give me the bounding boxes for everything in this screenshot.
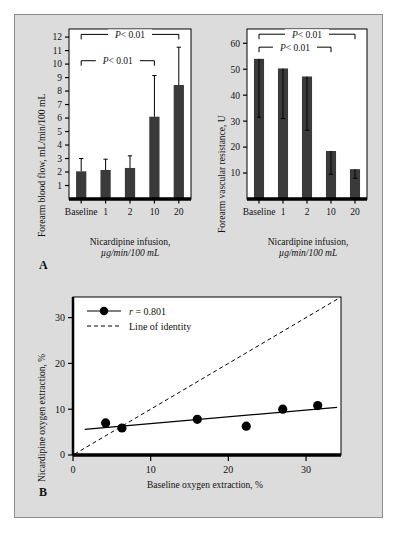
y-tick-label: 20 xyxy=(55,358,65,369)
x-tick-label: Baseline xyxy=(65,207,98,217)
figure-frame: Forearm blood flow, mL/min/100 mL 123456… xyxy=(14,14,383,518)
y-tick-label: 50 xyxy=(231,65,241,75)
y-tick-label: 8 xyxy=(57,86,62,96)
chart-b-y-axis-title-units: U xyxy=(217,115,227,122)
p-operator: < 0.01 xyxy=(121,30,146,40)
p-value-label: P< 0.01 xyxy=(279,43,310,53)
y-tick-label: 12 xyxy=(53,32,63,42)
legend-dot-marker xyxy=(100,307,108,315)
x-tick-label: Baseline xyxy=(243,207,276,217)
panel-a-vascular-resistance-chart: Forearm vascular resistance, U 102030405… xyxy=(195,15,385,265)
y-tick-label: 30 xyxy=(55,312,65,323)
x-tick-label: 30 xyxy=(301,464,311,475)
chart-c-x-axis-title-text: Baseline oxygen extraction, % xyxy=(147,480,263,490)
chart-a-y-axis-title-text: Forearm blood flow, xyxy=(37,157,47,237)
x-tick-label: 10 xyxy=(150,207,160,217)
data-point xyxy=(101,418,110,427)
y-tick-label: 7 xyxy=(57,100,62,110)
y-tick-label: 60 xyxy=(231,39,241,49)
y-tick-label: 30 xyxy=(231,117,241,127)
x-tick-label: 1 xyxy=(103,207,108,217)
chart-b-x-axis-title-line2: µg/min/100 mL xyxy=(279,248,338,258)
y-tick-label: 10 xyxy=(53,59,63,69)
p-value-label: P< 0.01 xyxy=(102,56,133,66)
x-tick-label: 10 xyxy=(146,464,156,475)
y-tick-label: 0 xyxy=(60,449,65,460)
bar xyxy=(149,117,159,199)
x-tick-label: 1 xyxy=(281,207,286,217)
data-point xyxy=(193,415,202,424)
legend-label-identity: Line of identity xyxy=(129,321,191,332)
x-tick-label: 2 xyxy=(305,207,310,217)
bar xyxy=(76,171,86,199)
y-tick-label: 20 xyxy=(231,142,241,152)
x-tick-label: 0 xyxy=(71,464,76,475)
p-value-label: P< 0.01 xyxy=(291,30,322,40)
p-operator: < 0.01 xyxy=(286,43,311,53)
legend-r-value: = 0.801 xyxy=(133,306,166,317)
panel-a-blood-flow-chart: Forearm blood flow, mL/min/100 mL 123456… xyxy=(15,15,205,265)
panel-b-letter: B xyxy=(39,485,47,500)
x-tick-label: 20 xyxy=(223,464,233,475)
chart-a-x-axis-title-line2: µg/min/100 mL xyxy=(101,248,160,258)
chart-b-x-axis-title: Nicardipine infusion, µg/min/100 mL xyxy=(233,237,383,259)
x-tick-label: 2 xyxy=(128,207,133,217)
x-tick-label: 10 xyxy=(326,207,336,217)
x-tick-label: 20 xyxy=(350,207,360,217)
chart-c-x-axis-title: Baseline oxygen extraction, % xyxy=(75,480,335,491)
data-point xyxy=(278,405,287,414)
chart-c-plot: 01020300102030r = 0.801Line of identity xyxy=(15,287,355,487)
x-tick-label: 20 xyxy=(174,207,184,217)
y-tick-label: 10 xyxy=(231,168,241,178)
y-tick-label: 9 xyxy=(57,73,62,83)
chart-a-y-axis-title: Forearm blood flow, mL/min/100 mL xyxy=(37,94,47,237)
data-point xyxy=(313,401,322,410)
bar xyxy=(100,170,110,199)
data-point xyxy=(117,423,126,432)
y-tick-label: 1 xyxy=(57,181,62,191)
y-tick-label: 6 xyxy=(57,113,62,123)
chart-c-y-axis-title-text: Nicardipine oxygen extraction, % xyxy=(37,354,47,482)
y-tick-label: 3 xyxy=(57,154,62,164)
y-tick-label: 10 xyxy=(55,404,65,415)
chart-a-x-axis-title: Nicardipine infusion, µg/min/100 mL xyxy=(55,237,205,259)
y-tick-label: 11 xyxy=(53,46,62,56)
chart-b-x-axis-title-line1: Nicardipine infusion, xyxy=(268,237,349,247)
data-point xyxy=(242,422,251,431)
chart-b-y-axis-title-text: Forearm vascular resistance, xyxy=(217,122,227,233)
chart-b-y-axis-title: Forearm vascular resistance, U xyxy=(217,115,227,233)
panel-a-letter: A xyxy=(39,258,48,273)
p-operator: < 0.01 xyxy=(109,56,134,66)
panel-b-scatter-chart: Nicardipine oxygen extraction, % 0102030… xyxy=(15,287,384,502)
y-tick-label: 40 xyxy=(231,91,241,101)
chart-c-y-axis-title: Nicardipine oxygen extraction, % xyxy=(37,354,47,482)
y-tick-label: 4 xyxy=(57,140,62,150)
p-value-label: P< 0.01 xyxy=(114,30,145,40)
chart-a-y-axis-title-units: mL/min/100 mL xyxy=(37,94,47,157)
legend-label-correlation: r = 0.801 xyxy=(129,306,166,317)
p-operator: < 0.01 xyxy=(298,30,323,40)
chart-a-x-axis-title-line1: Nicardipine infusion, xyxy=(90,237,171,247)
bar xyxy=(125,168,135,199)
y-tick-label: 5 xyxy=(57,127,62,137)
y-tick-label: 2 xyxy=(57,167,62,177)
bar xyxy=(174,85,184,199)
